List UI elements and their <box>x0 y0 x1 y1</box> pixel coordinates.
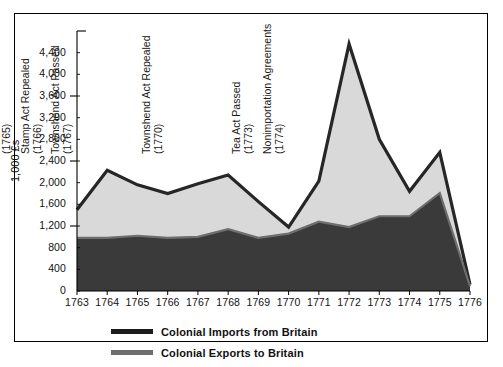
legend-swatch <box>111 329 153 334</box>
y-tick-label: 800 <box>15 241 66 253</box>
x-tick-label: 1776 <box>450 296 490 308</box>
legend-item-2[interactable]: Colonial Exports to Britain <box>111 342 318 363</box>
legend-label: Colonial Imports from Britain <box>161 326 318 338</box>
chart-legend: Colonial Imports from BritainColonial Ex… <box>111 321 318 363</box>
chart-frame: 1,000 £s 04008001,2001,6002,0002,4002,80… <box>14 13 488 342</box>
legend-swatch <box>111 350 153 355</box>
y-tick-label: 400 <box>15 262 66 274</box>
y-tick-label: 0 <box>15 284 66 296</box>
y-tick-label: 1,600 <box>15 197 66 209</box>
chart-figure: 1,000 £s 04008001,2001,6002,0002,4002,80… <box>0 0 503 367</box>
y-tick-label: 2,400 <box>15 154 66 166</box>
legend-item-1[interactable]: Colonial Imports from Britain <box>111 321 318 342</box>
annotation-year: (1774) <box>273 124 413 154</box>
legend-label: Colonial Exports to Britain <box>161 347 304 359</box>
y-tick-label: 1,200 <box>15 219 66 231</box>
y-tick-label: 2,000 <box>15 176 66 188</box>
